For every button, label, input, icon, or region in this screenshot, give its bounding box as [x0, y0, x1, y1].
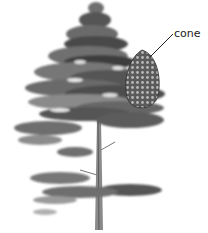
cone-leader-line — [150, 34, 173, 57]
cone-label: cone — [174, 28, 201, 39]
tree-diagram: cone — [0, 0, 208, 233]
foliage — [14, 2, 165, 215]
